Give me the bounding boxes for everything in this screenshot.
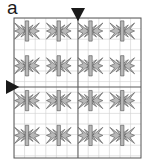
motif-element: [89, 21, 92, 41]
motif-element: [121, 125, 124, 145]
tiling-motif: [142, 56, 149, 76]
motif-element: [89, 56, 92, 76]
motif-element: [92, 162, 103, 166]
motif-element: [145, 56, 149, 75]
tiling-motif: [142, 160, 149, 166]
motif-element: [124, 162, 135, 166]
motif-element: [25, 21, 28, 41]
pattern-canvas: [0, 0, 149, 166]
motif-element: [145, 126, 149, 145]
motif-element: [61, 162, 72, 166]
motif-element: [110, 162, 121, 166]
motif-element: [57, 125, 60, 145]
motif-element: [121, 56, 124, 76]
motif-element: [113, 161, 132, 166]
motif-element: [121, 21, 124, 41]
motif-element: [121, 90, 124, 110]
motif-element: [57, 160, 60, 166]
motif-element: [25, 90, 28, 110]
motif-element: [57, 90, 60, 110]
tiling-motif: [46, 160, 71, 166]
figure-panel: a: [0, 0, 149, 166]
tiling-motif: [110, 160, 135, 166]
motif-element: [142, 23, 149, 39]
motif-element: [81, 161, 100, 166]
motif-element: [15, 162, 26, 166]
panel-label: a: [7, 0, 18, 17]
motif-element: [121, 160, 124, 166]
motif-element: [49, 161, 68, 166]
tiling-motif: [142, 21, 149, 41]
motif-element: [142, 58, 149, 74]
motif-element: [145, 161, 149, 166]
motif-element: [142, 93, 149, 109]
motif-element: [89, 160, 92, 166]
motif-element: [46, 162, 57, 166]
motif-element: [18, 161, 37, 166]
motif-element: [145, 22, 149, 41]
tiling-motif: [15, 160, 40, 166]
motif-element: [57, 56, 60, 76]
motif-element: [89, 90, 92, 110]
motif-element: [25, 56, 28, 76]
motif-element: [29, 162, 40, 166]
motif-element: [142, 162, 149, 166]
motif-element: [145, 91, 149, 110]
motif-element: [78, 162, 89, 166]
motif-element: [25, 125, 28, 145]
tiling-motif: [78, 160, 103, 166]
motif-element: [57, 21, 60, 41]
motif-element: [142, 127, 149, 143]
tiling-motif: [142, 125, 149, 145]
motif-element: [89, 125, 92, 145]
motif-element: [25, 160, 28, 166]
tiling-motif: [142, 90, 149, 110]
